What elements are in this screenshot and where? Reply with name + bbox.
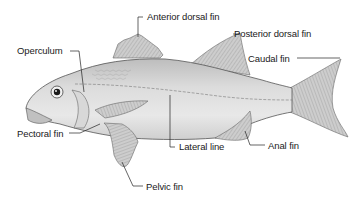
label-operculum: Operculum (17, 45, 63, 56)
leader-anterior-dorsal (138, 17, 143, 37)
label-pelvic-fin: Pelvic fin (146, 181, 183, 192)
label-posterior-dorsal-fin: Posterior dorsal fin (234, 28, 311, 39)
label-pectoral-fin: Pectoral fin (17, 128, 63, 139)
label-anterior-dorsal-fin: Anterior dorsal fin (147, 11, 220, 22)
fish-diagram: Anterior dorsal fin Posterior dorsal fin… (0, 0, 358, 201)
label-caudal-fin: Caudal fin (248, 53, 290, 64)
label-anal-fin: Anal fin (268, 140, 299, 151)
anterior-dorsal-fin (113, 34, 163, 58)
caudal-fin-shape (290, 59, 348, 137)
label-lateral-line: Lateral line (179, 141, 224, 152)
